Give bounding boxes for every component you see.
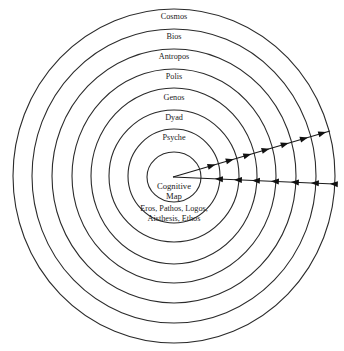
arrowhead-icon <box>243 153 252 159</box>
arrowhead-icon <box>299 137 308 143</box>
arrowhead-icon <box>318 131 327 137</box>
arrowhead-icon <box>261 148 270 154</box>
arrowhead-icon <box>280 142 289 148</box>
ring-label-genos: Genos <box>164 94 185 102</box>
arrowhead-icon <box>207 164 216 170</box>
ring-label-psyche: Psyche <box>162 134 185 142</box>
arrowhead-icon <box>215 176 223 182</box>
arrowhead-icon <box>291 179 299 185</box>
arrowhead-icon <box>252 178 260 184</box>
ring-label-antropos: Antropos <box>159 53 189 61</box>
arrowhead-icon <box>330 181 338 187</box>
arrowhead-icon <box>225 159 234 165</box>
ring-antropos <box>52 49 296 303</box>
core-label-line2: Map <box>157 191 191 201</box>
ring-label-polis: Polis <box>166 73 182 81</box>
ring-label-dyad: Dyad <box>165 114 183 122</box>
faculties-line2: Aisthesis, Ethos <box>140 214 208 224</box>
core-label: Cognitive Map <box>157 181 191 201</box>
arrowhead-icon <box>311 180 319 186</box>
ring-label-bios: Bios <box>166 33 181 41</box>
faculties-line1: Eros, Pathos, Logos, <box>140 204 208 214</box>
faculties-label: Eros, Pathos, Logos, Aisthesis, Ethos <box>140 204 208 224</box>
ring-label-cosmos: Cosmos <box>161 13 187 21</box>
arrowhead-icon <box>234 177 242 183</box>
core-label-line1: Cognitive <box>157 181 191 191</box>
arrowhead-icon <box>271 179 279 185</box>
